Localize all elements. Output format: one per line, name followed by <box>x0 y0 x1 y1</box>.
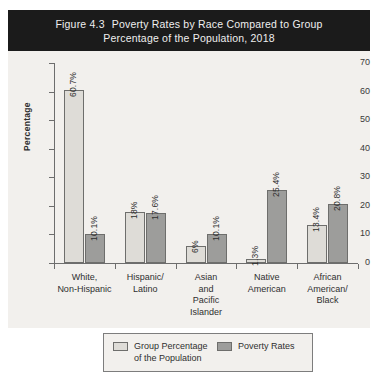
legend-swatch-icon <box>217 342 232 351</box>
bar-value-label: 18% <box>129 201 139 219</box>
x-axis-tick-mark <box>54 264 55 269</box>
y-axis-tick-label: 50 <box>336 114 370 124</box>
figure-container: Figure 4.3Poverty Rates by Race Compared… <box>0 0 385 388</box>
x-axis-category-label: African American/ Black <box>297 272 358 307</box>
y-axis-tick-mark <box>49 234 54 235</box>
y-axis-tick-mark <box>49 206 54 207</box>
bar-value-label: 20.8% <box>332 185 342 210</box>
legend-entry: Poverty Rates <box>217 340 295 352</box>
x-axis-tick-mark <box>297 264 298 269</box>
figure-title-line-2: Percentage of the Population, 2018 <box>103 31 274 45</box>
x-axis-tick-mark <box>115 264 116 269</box>
chart-legend: Group Percentage of the Population Pover… <box>103 333 313 372</box>
x-axis-category-label: Asian and Pacific Islander <box>176 272 237 318</box>
bar-value-label: 10.1% <box>89 216 99 241</box>
bar-value-label: 6% <box>190 240 200 253</box>
x-axis-category-label: Native American <box>236 272 297 295</box>
x-axis-category-label: White, Non-Hispanic <box>54 272 115 295</box>
bar <box>125 212 145 263</box>
bar-value-label: 60.7% <box>68 71 78 96</box>
y-axis-line <box>54 63 55 264</box>
figure-title-banner: Figure 4.3Poverty Rates by Race Compared… <box>8 10 370 51</box>
bar <box>267 190 287 263</box>
y-axis-tick-mark <box>49 120 54 121</box>
legend-entry: Group Percentage of the Population <box>113 340 208 364</box>
y-axis-tick-label: 70 <box>336 57 370 67</box>
y-axis-tick-mark <box>49 92 54 93</box>
y-axis-tick-mark <box>49 63 54 64</box>
bar <box>146 213 166 263</box>
x-axis-tick-mark <box>236 264 237 269</box>
y-axis-tick-mark <box>49 177 54 178</box>
y-axis-title: Percentage <box>22 102 32 151</box>
legend-label: Poverty Rates <box>238 340 295 352</box>
x-axis-category-label: Hispanic/ Latino <box>115 272 176 295</box>
bar <box>328 204 348 263</box>
bar-value-label: 17.6% <box>150 195 160 220</box>
figure-number: Figure 4.3 <box>55 18 104 30</box>
y-axis-tick-label: 60 <box>336 86 370 96</box>
figure-title-text-1: Poverty Rates by Race Compared to Group <box>112 18 323 30</box>
bar-value-label: 1.3% <box>250 246 260 266</box>
y-axis-tick-label: 40 <box>336 143 370 153</box>
bar <box>64 90 84 263</box>
x-axis-tick-mark <box>176 264 177 269</box>
x-axis-line <box>54 263 358 264</box>
bar-value-label: 13.4% <box>311 207 321 232</box>
x-axis-tick-mark <box>358 264 359 269</box>
y-axis-tick-mark <box>49 149 54 150</box>
plot-area: Percentage 010203040506070 60.7%10.1%18%… <box>8 51 370 328</box>
legend-label: Group Percentage of the Population <box>134 340 208 364</box>
bar-value-label: 10.1% <box>211 216 221 241</box>
bar-value-label: 25.4% <box>271 172 281 197</box>
figure-title-line-1: Figure 4.3Poverty Rates by Race Compared… <box>55 17 322 31</box>
y-axis-tick-label: 30 <box>336 171 370 181</box>
legend-swatch-icon <box>113 342 128 351</box>
